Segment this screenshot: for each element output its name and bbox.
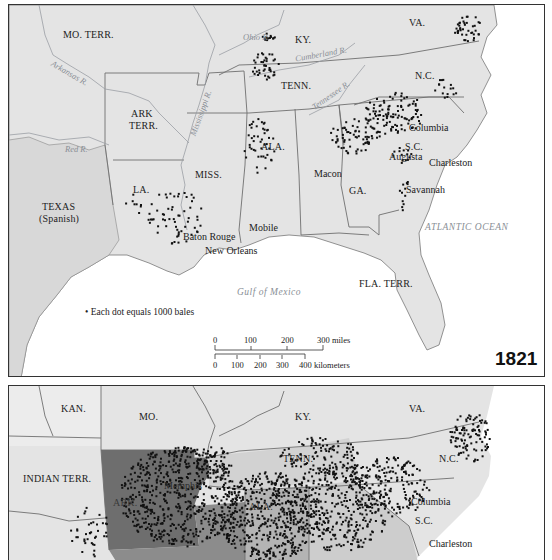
label-macon: Macon [314,169,342,179]
label-columbia-1859: Columbia [411,497,450,507]
label-mobile: Mobile [249,223,278,233]
scale-mi-200: 200 [281,335,294,345]
cotton-dots-1821 [9,5,545,377]
label-columbia: Columbia [409,123,448,133]
label-ga: GA. [349,186,367,196]
label-mo: MO. [139,412,158,422]
label-red-river: Red R. [65,145,88,154]
map-panel-1859: KAN. MO. KY. VA. INDIAN TERR. TENN. N.C.… [8,385,545,560]
label-nc-1859: N.C. [439,454,459,464]
label-ark-terr-2: TERR. [129,121,158,131]
scale-km-200: 200 [254,360,267,370]
scale-km-0: 0 [213,360,217,370]
legend-dot-icon: • [85,307,88,317]
label-ark-terr-1: ARK [131,109,153,119]
label-nc: N.C. [415,71,435,81]
scale-mi-300: 300 miles [317,335,350,345]
label-va: VA. [409,18,425,28]
label-new-orleans: New Orleans [205,246,257,256]
label-tenn-1859: TENN. [283,454,313,464]
label-charleston-1859: Charleston [429,539,472,549]
label-la: LA. [133,185,149,195]
label-gulf-of-mexico: Gulf of Mexico [237,288,301,298]
label-texas-1: TEXAS [42,202,75,212]
scale-mi-0: 0 [213,335,217,345]
label-atlantic-ocean: ATLANTIC OCEAN [425,223,508,233]
label-ala: ALA. [261,142,285,152]
label-texas-2: (Spanish) [39,214,79,224]
label-tenn: TENN. [281,81,311,91]
scale-km-300: 300 [276,360,289,370]
label-ky-1859: KY. [295,412,311,422]
scale-bar: 0 100 200 300 miles 0 100 200 300 400 ki… [209,335,369,371]
label-va-1859: VA. [409,404,425,414]
legend: • Each dot equals 1000 bales [85,307,194,317]
scale-km-100: 100 [231,360,244,370]
label-miss: MISS. [195,170,222,180]
label-savannah: Savannah [406,185,445,195]
label-ala-1859: ALA. [249,502,273,512]
map-panel-1821: MO. TERR. KY. VA. TENN. N.C. ARK TERR. M… [8,4,545,377]
label-ohio-river: Ohio R. [243,33,269,42]
label-ky: KY. [295,35,311,45]
label-baton-rouge: Baton Rouge [183,232,236,242]
label-kan: KAN. [61,404,86,414]
label-mo-terr: MO. TERR. [63,30,114,40]
scale-km-400: 400 kilometers [299,360,350,370]
label-augusta: Augusta [389,152,422,162]
scale-mi-100: 100 [244,335,257,345]
label-sc-1859: S.C. [415,516,433,526]
label-indian-terr: INDIAN TERR. [23,474,91,484]
label-charleston: Charleston [429,158,472,168]
legend-text: Each dot equals 1000 bales [91,307,194,317]
label-ark: ARK. [113,498,137,508]
year-label-1821: 1821 [495,348,537,370]
label-memphis: Memphis [164,481,202,491]
label-fla-terr: FLA. TERR. [359,279,413,289]
